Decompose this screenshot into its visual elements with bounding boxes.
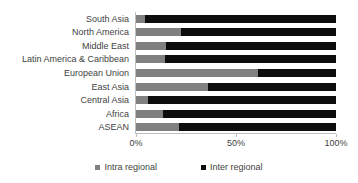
bar-segment-intra-regional[interactable]	[136, 42, 166, 50]
bar-series-group	[136, 12, 336, 134]
bar-segment-inter-regional[interactable]	[166, 42, 336, 50]
bar-track	[136, 123, 336, 131]
y-axis-label-middle-east: Middle East	[0, 39, 132, 53]
y-axis-label-asean: ASEAN	[0, 121, 132, 135]
bar-segment-inter-regional[interactable]	[145, 15, 336, 23]
legend-item-intra-regional[interactable]: Intra regional	[95, 162, 157, 173]
bar-segment-intra-regional[interactable]	[136, 123, 179, 131]
bar-track	[136, 83, 336, 91]
y-axis-label-east-asia: East Asia	[0, 80, 132, 94]
bar-row	[136, 121, 336, 135]
bar-row	[136, 39, 336, 53]
bar-segment-inter-regional[interactable]	[163, 110, 336, 118]
x-axis-tick	[336, 134, 337, 137]
chart-legend: Intra regional Inter regional	[0, 160, 358, 174]
bar-segment-intra-regional[interactable]	[136, 55, 165, 63]
x-axis-tick-labels: 0%50%100%	[0, 138, 358, 150]
square-marker-icon	[95, 165, 100, 170]
legend-label-inter-regional: Inter regional	[210, 162, 263, 173]
bar-segment-inter-regional[interactable]	[165, 55, 336, 63]
bar-track	[136, 42, 336, 50]
plot-area	[136, 12, 336, 134]
x-axis-tick	[236, 134, 237, 137]
y-axis-label-north-america: North America	[0, 26, 132, 40]
legend-item-inter-regional[interactable]: Inter regional	[201, 162, 263, 173]
y-axis-label-central-asia: Central Asia	[0, 93, 132, 107]
y-axis-label-latin-america-caribbean: Latin America & Caribbean	[0, 53, 132, 67]
bar-track	[136, 69, 336, 77]
bar-segment-inter-regional[interactable]	[258, 69, 336, 77]
bar-track	[136, 96, 336, 104]
y-axis-label-south-asia: South Asia	[0, 12, 132, 26]
bar-track	[136, 110, 336, 118]
bar-segment-intra-regional[interactable]	[136, 69, 258, 77]
y-axis-category-labels: South Asia North America Middle East Lat…	[0, 12, 132, 134]
bar-track	[136, 15, 336, 23]
bar-segment-inter-regional[interactable]	[181, 28, 336, 36]
bar-track	[136, 28, 336, 36]
x-axis-tick-label: 50%	[227, 138, 245, 149]
bar-segment-intra-regional[interactable]	[136, 96, 148, 104]
x-axis-tick	[136, 134, 137, 137]
y-axis-label-africa: Africa	[0, 107, 132, 121]
bar-row	[136, 93, 336, 107]
bar-segment-inter-regional[interactable]	[148, 96, 336, 104]
square-marker-icon	[201, 165, 206, 170]
y-axis-label-european-union: European Union	[0, 66, 132, 80]
x-axis-tick-label: 0%	[129, 138, 142, 149]
bar-segment-intra-regional[interactable]	[136, 83, 208, 91]
bar-segment-intra-regional[interactable]	[136, 28, 181, 36]
bar-segment-inter-regional[interactable]	[179, 123, 336, 131]
bar-segment-intra-regional[interactable]	[136, 110, 163, 118]
bar-segment-inter-regional[interactable]	[208, 83, 336, 91]
bar-row	[136, 66, 336, 80]
bar-row	[136, 80, 336, 94]
x-axis-tick-label: 100%	[324, 138, 347, 149]
bar-row	[136, 12, 336, 26]
bar-track	[136, 55, 336, 63]
stacked-bar-chart: South Asia North America Middle East Lat…	[0, 0, 358, 183]
legend-label-intra-regional: Intra regional	[104, 162, 157, 173]
bar-segment-intra-regional[interactable]	[136, 15, 145, 23]
bar-row	[136, 26, 336, 40]
bar-row	[136, 53, 336, 67]
bar-row	[136, 107, 336, 121]
